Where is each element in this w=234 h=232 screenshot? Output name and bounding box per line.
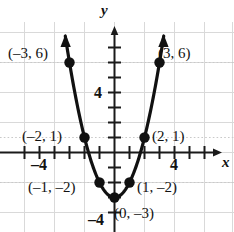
y-tick-label-4: 4 [94, 85, 102, 101]
y-axis-label: y [101, 3, 108, 18]
x-tick-label-neg4: –4 [31, 157, 47, 173]
point-label-2-1: (2, 1) [152, 129, 185, 144]
point-label-1-neg2: (1, –2) [137, 180, 177, 195]
x-axis-label: x [222, 155, 230, 170]
point-1-neg2 [124, 177, 134, 187]
point-label-3-6: (3, 6) [158, 46, 191, 61]
x-tick-label-4: 4 [170, 157, 178, 173]
point-2-1 [139, 132, 149, 142]
point-0-neg3 [109, 192, 119, 202]
point-neg2-1 [79, 132, 89, 142]
graph-figure: y x –4 4 4 –4 (–3, 6) (3, 6) (–2, 1) (2,… [0, 0, 234, 232]
point-neg1-neg2 [94, 177, 104, 187]
point-label-neg2-1: (–2, 1) [22, 129, 62, 144]
coordinate-plane [0, 0, 234, 232]
y-tick-label-neg4: –4 [88, 212, 104, 228]
point-label-0-neg3: (0, –3) [114, 206, 154, 221]
point-neg3-6 [64, 57, 74, 67]
point-label-neg3-6: (–3, 6) [8, 46, 48, 61]
point-label-neg1-neg2: (–1, –2) [28, 180, 76, 195]
